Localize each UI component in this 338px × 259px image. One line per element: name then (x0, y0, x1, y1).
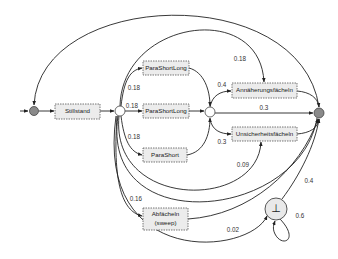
edge-merge-annaeherung (210, 91, 231, 107)
label-split-parashortlong-1: 0.18 (128, 84, 141, 91)
label-bottom-end: 0.4 (305, 177, 314, 184)
edge-merge-unsicherheit (210, 119, 231, 134)
label-bottom-selfloop: 0.6 (296, 212, 305, 219)
node-parashortlong-2[interactable]: ParaShortLong (143, 104, 189, 118)
label-split-abfaecheln: 0.16 (130, 195, 143, 202)
node-parashortlong-1[interactable]: ParaShortLong (143, 61, 189, 75)
bottom-symbol: ⊥ (271, 202, 281, 215)
edge-parashort-merge (187, 118, 210, 155)
node-bottom[interactable]: ⊥ (265, 198, 287, 220)
label-split-annaeherung: 0.18 (234, 55, 247, 62)
node-parashort[interactable]: ParaShort (143, 148, 187, 162)
parashortlong-1-label: ParaShortLong (145, 64, 187, 71)
node-annaeherung[interactable]: Annäherungsfächeln (232, 83, 297, 98)
state-diagram: Stillstand ParaShortLong ParaShortLong P… (0, 0, 338, 259)
end-node[interactable] (314, 108, 324, 118)
node-abfaecheln[interactable]: Abfächeln (sweep) (143, 208, 188, 230)
start-node[interactable] (30, 107, 39, 116)
edge-bottom-selfloop (273, 219, 289, 241)
label-merge-unsicherheit: 0.3 (218, 138, 227, 145)
label-merge-annaeherung: 0.4 (218, 81, 227, 88)
parashort-label: ParaShort (151, 151, 179, 158)
label-split-unsicherheit: 0.09 (237, 161, 250, 168)
abfaecheln-label: Abfächeln (152, 210, 180, 217)
node-stillstand[interactable]: Stillstand (55, 104, 100, 119)
parashortlong-2-label: ParaShortLong (145, 107, 187, 114)
abfaecheln-sublabel: (sweep) (154, 219, 176, 226)
stillstand-label: Stillstand (65, 107, 91, 114)
split-node[interactable] (115, 106, 125, 116)
label-split-parashort: 0.18 (128, 133, 141, 140)
node-unsicherheit[interactable]: Unsicherheitsfächeln (232, 127, 297, 141)
edge-unsicherheit-end (297, 119, 319, 134)
edge-parashortlong-1-merge (189, 68, 210, 106)
label-split-parashortlong-2: 0.18 (126, 102, 139, 109)
label-merge-end: 0.3 (260, 104, 269, 111)
unsicherheit-label: Unsicherheitsfächeln (236, 130, 294, 137)
label-split-bottom: 0.02 (227, 226, 240, 233)
annaeherung-label: Annäherungsfächeln (236, 86, 293, 93)
merge-node[interactable] (205, 107, 215, 117)
